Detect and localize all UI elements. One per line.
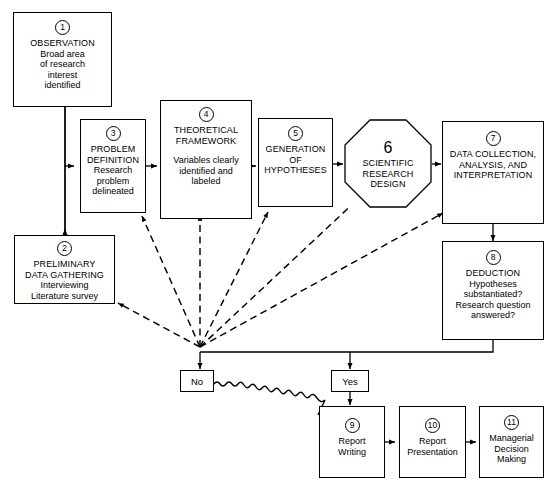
node-title-3: DESIGN (370, 179, 405, 190)
node-data-collection-analysis-interpretation[interactable]: 7 DATA COLLECTION, ANALYSIS, AND INTERPR… (442, 121, 544, 224)
node-title-2: DEFINITION (87, 155, 139, 166)
node-preliminary-data-gathering[interactable]: 2 PRELIMINARY DATA GATHERING Interviewin… (14, 235, 115, 304)
node-line: problem (97, 176, 130, 187)
node-line: Interviewing (40, 280, 88, 291)
node-title: DATA COLLECTION, (450, 149, 536, 160)
edge-feedback-to-2 (118, 303, 200, 347)
node-observation[interactable]: 1 OBSERVATION Broad area of research int… (13, 12, 112, 107)
node-line: labeled (191, 176, 220, 187)
decision-label-no[interactable]: No (180, 370, 214, 392)
node-number-badge: 6 (384, 139, 393, 158)
node-line: Report (338, 436, 365, 447)
node-title-3: HYPOTHESES (264, 165, 327, 176)
node-line: of research (40, 59, 85, 70)
node-report-writing[interactable]: 9 Report Writing (319, 406, 385, 478)
node-title-2: ANALYSIS, AND (459, 160, 527, 171)
node-number-badge: 2 (57, 241, 72, 256)
node-number-badge: 11 (504, 415, 519, 430)
node-line: substantiated? (464, 289, 523, 300)
node-line: Presentation (407, 447, 458, 458)
research-process-flowchart: 1 OBSERVATION Broad area of research int… (0, 0, 557, 488)
decision-label-yes-text: Yes (342, 376, 358, 387)
node-line: Research (94, 165, 133, 176)
node-title: OBSERVATION (30, 38, 95, 49)
node-line: Literature survey (31, 291, 98, 302)
node-number-badge: 9 (345, 418, 360, 433)
node-line: Writing (338, 447, 366, 458)
edge-feedback-to-5 (200, 212, 268, 347)
node-problem-definition[interactable]: 3 PROBLEM DEFINITION Research problem de… (80, 119, 146, 213)
edge-8-to-bus (200, 340, 493, 352)
node-title: GENERATION (266, 144, 326, 155)
node-title-2: FRAMEWORK (176, 136, 236, 147)
node-line: Variables clearly (173, 155, 238, 166)
node-line: answered? (471, 310, 515, 321)
node-line: Managerial (489, 433, 534, 444)
node-line: Broad area (40, 49, 85, 60)
edge-no-squiggle (214, 382, 325, 415)
node-number-badge: 10 (425, 418, 440, 433)
node-title-2: OF (289, 155, 302, 166)
node-line: identified (44, 80, 80, 91)
node-deduction[interactable]: 8 DEDUCTION Hypotheses substantiated? Re… (442, 241, 544, 340)
node-number-badge: 4 (199, 107, 214, 122)
node-line: Hypotheses (469, 279, 517, 290)
node-line: Making (497, 454, 526, 465)
node-line: identified and (179, 166, 233, 177)
decision-label-yes[interactable]: Yes (331, 370, 369, 392)
node-scientific-research-design[interactable]: 6 SCIENTIFIC RESEARCH DESIGN (344, 119, 432, 208)
node-title-2: RESEARCH (363, 169, 414, 180)
node-line: interest (48, 70, 78, 81)
node-theoretical-framework[interactable]: 4 THEORETICAL FRAMEWORK Variables clearl… (160, 100, 252, 219)
node-title: PROBLEM (91, 144, 136, 155)
node-number-badge: 7 (486, 131, 501, 146)
node-title: PRELIMINARY (34, 259, 96, 270)
node-generation-of-hypotheses[interactable]: 5 GENERATION OF HYPOTHESES (258, 118, 333, 207)
node-title: THEORETICAL (174, 125, 238, 136)
node-number-badge: 8 (486, 250, 501, 265)
node-managerial-decision-making[interactable]: 11 Managerial Decision Making (479, 406, 544, 478)
decision-label-no-text: No (191, 376, 203, 387)
edge-feedback-to-3 (142, 216, 200, 347)
node-number-badge: 3 (106, 126, 121, 141)
node-title: SCIENTIFIC (362, 158, 413, 169)
node-title: DEDUCTION (466, 268, 520, 279)
node-number-badge: 5 (288, 126, 303, 141)
node-title-2: DATA GATHERING (25, 270, 104, 281)
node-report-presentation[interactable]: 10 Report Presentation (399, 406, 466, 478)
node-line: Report (419, 436, 446, 447)
node-line: Decision (494, 444, 529, 455)
node-number-badge: 1 (55, 20, 70, 35)
node-line: delineated (92, 186, 134, 197)
node-title-3: INTERPRETATION (454, 170, 533, 181)
node-line: Research question (455, 300, 530, 311)
